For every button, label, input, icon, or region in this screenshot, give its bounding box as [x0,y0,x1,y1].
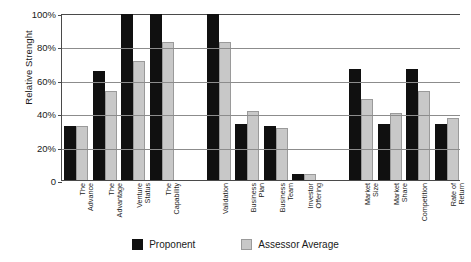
bar-proponent [150,14,162,181]
x-axis-label-line: Size [372,183,380,235]
legend-label: Proponent [149,239,195,250]
gridline [62,115,460,116]
bar-proponent [121,14,133,181]
bar-proponent [207,14,219,181]
x-axis-label-line: Status [144,183,152,235]
bar-proponent [349,69,361,181]
x-axis-label: MarketSize [364,183,380,235]
bar-assessor-average [276,128,288,181]
bar-proponent [406,69,418,181]
y-axis-tick-mark [58,149,62,150]
x-axis-label: Validation [222,183,230,235]
bar-proponent [264,126,276,181]
gridline [62,82,460,83]
x-axis-label: VentureStatus [136,183,152,235]
y-axis-tick-label: 0 [10,176,56,187]
bar-proponent [93,71,105,181]
x-axis-label: MarketShare [393,183,409,235]
x-axis-label: TheAdvance [79,183,95,235]
y-axis-tick-mark [58,115,62,116]
x-axis-label-line: Advance [87,183,95,235]
x-axis-label-line: Validation [222,183,230,235]
x-axis-label: Rate ofReturn [450,183,466,235]
legend-item[interactable]: Proponent [132,239,195,250]
legend-label: Assessor Average [258,239,338,250]
x-axis-label-line: Capability [173,183,181,235]
bar-assessor-average [247,111,259,181]
bar-assessor-average [133,61,145,181]
x-axis-label: Competition [421,183,429,235]
x-axis-label-line: Advantage [116,183,124,235]
legend-item[interactable]: Assessor Average [241,239,338,250]
y-axis-tick-label: 40% [10,109,56,120]
x-axis-label-line: Competition [421,183,429,235]
x-axis-labels: TheAdvanceTheAdvantageVentureStatusTheCa… [61,183,460,235]
bar-assessor-average [105,91,117,181]
x-axis-label-line: Return [458,183,466,235]
x-axis-label: InvestorOffering [307,183,323,235]
gridline [62,149,460,150]
plot-area [61,14,460,181]
chart-legend: ProponentAssessor Average [0,239,471,250]
bar-assessor-average [162,42,174,181]
x-axis-baseline [62,180,460,181]
bar-proponent [235,124,247,181]
bar-assessor-average [390,113,402,181]
x-axis-label: BusinessPlan [250,183,266,235]
x-axis-label: TheAdvantage [108,183,124,235]
bar-proponent [64,126,76,181]
bar-assessor-average [361,99,373,181]
y-axis-tick-mark [58,82,62,83]
legend-swatch-icon [241,239,252,250]
bar-proponent [378,124,390,181]
y-axis-tick-label: 100% [10,9,56,20]
x-axis-label-line: Team [287,183,295,235]
bar-assessor-average [219,42,231,181]
x-axis-label-line: Offering [315,183,323,235]
bars-layer [62,15,460,181]
y-axis-tick-mark [58,15,62,16]
bar-proponent [435,124,447,181]
gridline [62,48,460,49]
bar-assessor-average [418,91,430,181]
legend-swatch-icon [132,239,143,250]
x-axis-label: BusinessTeam [279,183,295,235]
x-axis-label-line: Plan [258,183,266,235]
y-axis-tick-label: 80% [10,42,56,53]
y-axis-tick-label: 20% [10,142,56,153]
y-axis-tick-mark [58,48,62,49]
bar-assessor-average [76,126,88,181]
x-axis-label-line: Share [401,183,409,235]
y-axis-tick-label: 60% [10,75,56,86]
bar-chart: Relative Strenght 020%40%60%80%100% TheA… [0,0,471,262]
x-axis-label: TheCapability [165,183,181,235]
